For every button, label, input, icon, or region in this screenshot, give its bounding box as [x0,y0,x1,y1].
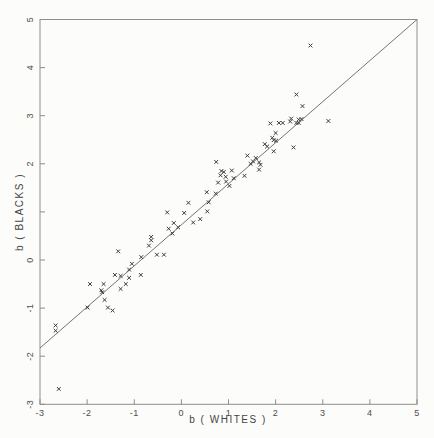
data-point-x-marker [272,149,276,153]
data-point-x-marker [191,221,195,225]
data-point-x-marker [274,131,278,135]
data-point-x-marker [149,235,153,239]
scatter-figure: -3-2-1012345-3-2-102345 b ( WHITES ) b (… [0,0,434,438]
data-point-x-marker [130,262,134,266]
data-point-x-marker [301,104,305,108]
data-point-x-marker [147,244,151,248]
data-point-x-marker [281,121,285,125]
data-point-x-marker [162,253,166,257]
data-point-x-marker [139,273,143,277]
fit-line [40,20,417,349]
data-point-x-marker [295,93,299,97]
data-point-x-marker [187,201,191,205]
data-point-x-marker [155,253,159,257]
data-point-x-marker [172,221,176,225]
y-tick-label: 5 [25,17,35,23]
data-point-x-marker [257,168,261,172]
data-point-x-marker [113,273,117,277]
y-tick-label: -3 [25,400,35,409]
data-point-x-marker [205,210,209,214]
data-point-x-marker [167,227,171,231]
data-point-x-marker [243,174,247,178]
x-tick-label: 0 [179,408,185,418]
y-tick-label: -1 [25,304,35,313]
data-point-x-marker [106,306,110,310]
data-point-x-marker [265,145,269,149]
data-point-x-marker [224,175,228,179]
data-point-x-marker [88,282,92,286]
data-point-x-marker [228,184,232,188]
x-tick-label: 4 [367,408,373,418]
data-point-x-marker [116,249,120,253]
data-point-x-marker [205,190,209,194]
y-axis-title: b ( BLACKS ) [14,173,25,251]
x-tick-label: 2 [273,408,279,418]
data-point-x-marker [54,329,58,333]
data-point-x-marker [198,217,202,221]
data-point-x-marker [182,211,186,215]
data-point-x-marker [176,225,180,229]
data-point-x-marker [292,146,296,150]
data-point-x-marker [119,287,123,291]
data-point-x-marker [139,255,143,259]
data-point-x-marker [269,122,273,126]
x-tick-label: -2 [83,408,92,418]
data-point-x-marker [277,121,281,125]
x-tick-label: 3 [320,408,326,418]
data-point-x-marker [165,211,169,215]
plot-area: -3-2-1012345-3-2-102345 [0,0,434,438]
data-point-x-marker [54,324,58,328]
data-point-x-marker [327,119,331,123]
data-point-x-marker [103,298,107,302]
x-tick-label: -1 [130,408,139,418]
data-point-x-marker [216,181,220,185]
data-point-x-marker [224,180,228,184]
x-tick-label: 5 [414,408,420,418]
data-point-x-marker [149,238,153,242]
data-point-x-marker [127,276,131,280]
data-point-x-marker [230,169,234,173]
data-point-x-marker [246,154,250,158]
data-point-x-marker [124,282,128,286]
y-tick-label: 3 [25,113,35,119]
plot-frame [40,20,417,405]
data-point-x-marker [111,309,115,313]
x-tick-label: -3 [35,408,44,418]
y-tick-label: 4 [25,65,35,71]
x-axis-title: b ( WHITES ) [189,414,266,425]
data-point-x-marker [214,160,218,164]
data-point-x-marker [309,44,313,48]
data-point-x-marker [57,387,61,391]
data-point-x-marker [102,282,106,286]
data-point-x-marker [219,173,223,177]
y-tick-label: 2 [25,161,35,167]
y-tick-label: -2 [25,352,35,361]
y-tick-label: 0 [25,257,35,263]
data-point-x-marker [297,121,301,125]
